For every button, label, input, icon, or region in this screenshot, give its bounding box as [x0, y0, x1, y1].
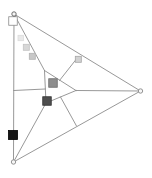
- vertex-right: [138, 89, 142, 93]
- median-a-lower: [61, 97, 77, 126]
- diagram-canvas: [0, 0, 152, 178]
- vertex-top-left: [12, 12, 16, 16]
- median-triangle-diagram: [0, 0, 152, 178]
- marker-square-midside: [75, 56, 81, 62]
- marker-square-white: [9, 17, 18, 26]
- side-top: [14, 14, 141, 91]
- marker-square-centroid: [49, 79, 58, 88]
- median-c-right: [76, 91, 141, 92]
- marker-square-black: [9, 131, 18, 140]
- marker-square-dark: [43, 97, 52, 106]
- vertex-bottom-left: [11, 160, 15, 164]
- marker-square-light-2: [23, 44, 29, 50]
- median-a-upper: [14, 14, 45, 71]
- median-c-left: [14, 89, 46, 91]
- marker-square-light-1: [18, 35, 23, 40]
- marker-square-light-3: [29, 53, 35, 59]
